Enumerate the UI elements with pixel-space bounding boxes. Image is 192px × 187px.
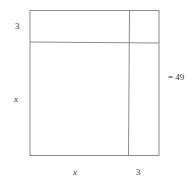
label-top-left-3: 3 [15,21,20,31]
label-left-x: x [14,94,18,104]
label-bottom-x: x [73,167,77,177]
area-model-diagram [0,0,192,187]
outer-square [30,11,159,156]
label-bottom-3: 3 [136,167,141,177]
label-equals-49: = 49 [168,72,184,82]
horizontal-divider [30,42,159,43]
vertical-divider [129,11,130,156]
